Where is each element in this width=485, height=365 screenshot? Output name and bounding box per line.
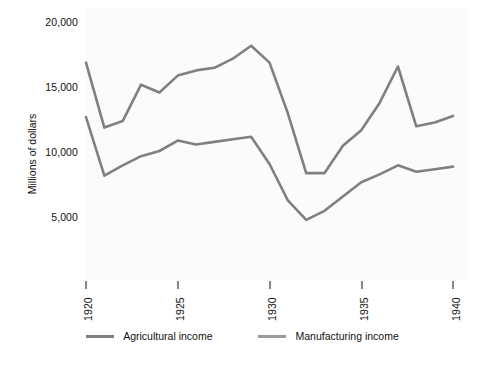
series-lines [86, 46, 453, 220]
legend-swatch-icon-agricultural [86, 335, 114, 338]
plot-area [0, 0, 485, 365]
line-agricultural-income [86, 117, 453, 220]
chart-legend: Agricultural income Manufacturing income [0, 330, 485, 342]
legend-item-agricultural-income[interactable]: Agricultural income [86, 330, 212, 342]
line-manufacturing-income [86, 46, 453, 173]
legend-swatch-icon-manufacturing [258, 335, 286, 338]
legend-label-manufacturing-income: Manufacturing income [295, 330, 398, 342]
legend-item-manufacturing-income[interactable]: Manufacturing income [258, 330, 398, 342]
x-axis-ticks [86, 281, 453, 289]
legend-label-agricultural-income: Agricultural income [123, 330, 212, 342]
chart-figure: 20,000 15,000 10,000 5,000 Millions of d… [0, 0, 485, 365]
